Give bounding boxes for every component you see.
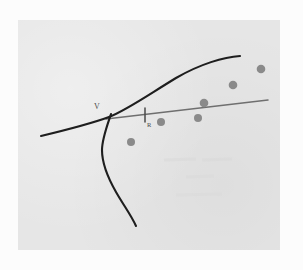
scatter-dot [194, 114, 202, 122]
gray-straight-line [106, 100, 268, 119]
scatter-dot [157, 118, 165, 126]
dark-curve-descending-branch [102, 114, 136, 226]
scatter-dot [127, 138, 135, 146]
dark-curve-rising-branch [41, 56, 240, 136]
vertex-label-v: V [94, 102, 100, 111]
scatter-dot [257, 65, 266, 74]
tick-label-r: R [147, 121, 152, 128]
scatter-dot [200, 99, 209, 108]
ghost-text-group [164, 159, 232, 195]
scatter-dot [229, 81, 238, 90]
sketch-scene: V R [0, 0, 303, 270]
scatter-dots-group [127, 65, 265, 146]
drawing-canvas: V R [0, 0, 303, 270]
